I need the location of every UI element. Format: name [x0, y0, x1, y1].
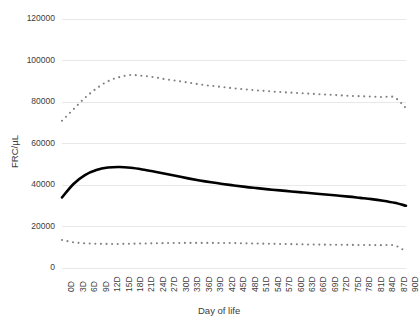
- series-dot: [257, 242, 259, 244]
- series-dot: [189, 242, 191, 244]
- series-dot: [229, 87, 231, 89]
- series-dot: [279, 91, 281, 93]
- series-dot: [124, 75, 126, 77]
- series-dot: [335, 94, 337, 96]
- x-tick-label: 90D: [410, 276, 419, 292]
- y-tick-label: 40000: [3, 179, 55, 189]
- series-dot: [357, 244, 359, 246]
- series-dot: [135, 74, 137, 76]
- series-dot: [374, 96, 376, 98]
- series-dot: [174, 79, 176, 81]
- series-dot: [245, 242, 247, 244]
- series-dot: [296, 92, 298, 94]
- series-dot: [369, 95, 371, 97]
- series-dot: [113, 78, 115, 80]
- series-dot: [234, 242, 236, 244]
- y-tick-label: 20000: [3, 221, 55, 231]
- series-dot: [307, 93, 309, 95]
- series-dot: [100, 243, 102, 245]
- series-dot: [257, 89, 259, 91]
- series-dot: [285, 243, 287, 245]
- series-dot: [178, 242, 180, 244]
- series-dot: [85, 96, 87, 98]
- series-dot: [329, 244, 331, 246]
- series-dot: [83, 242, 85, 244]
- x-tick-label: 42D: [227, 276, 237, 292]
- series-dot: [223, 242, 225, 244]
- series-dot: [162, 78, 164, 80]
- series-dot: [146, 75, 148, 77]
- series-dot: [302, 92, 304, 94]
- series-dot: [212, 85, 214, 87]
- series-dot: [346, 95, 348, 97]
- y-tick-label: 80000: [3, 96, 55, 106]
- series-dots-lower-bound: [61, 239, 403, 250]
- series-dot: [206, 242, 208, 244]
- x-tick-label: 51D: [261, 276, 271, 292]
- series-dot: [73, 108, 75, 110]
- series-dot: [386, 96, 388, 98]
- series-dot: [262, 243, 264, 245]
- series-dot: [268, 243, 270, 245]
- x-tick-label: 45D: [238, 276, 248, 292]
- x-tick-label: 21D: [146, 276, 156, 292]
- series-dot: [324, 244, 326, 246]
- x-tick-label: 78D: [364, 276, 374, 292]
- series-dot: [145, 242, 147, 244]
- series-dot: [93, 89, 95, 91]
- x-tick-label: 36D: [204, 276, 214, 292]
- series-dot: [240, 88, 242, 90]
- x-tick-label: 15D: [124, 276, 134, 292]
- series-dot: [318, 244, 320, 246]
- series-dot: [69, 112, 71, 114]
- x-tick-label: 72D: [341, 276, 351, 292]
- x-tick-label: 24D: [158, 276, 168, 292]
- series-dot: [111, 243, 113, 245]
- series-dot: [201, 84, 203, 86]
- frc-per-microliter-chart: 020000400006000080000100000120000 0D3D6D…: [0, 0, 419, 330]
- series-dot: [352, 244, 354, 246]
- series-group: [61, 74, 406, 250]
- series-dot: [117, 243, 119, 245]
- series-dot: [61, 120, 63, 122]
- series-dot: [77, 104, 79, 106]
- series-dot: [77, 242, 79, 244]
- x-tick-label: 48D: [250, 276, 260, 292]
- x-tick-label: 66D: [318, 276, 328, 292]
- series-dot: [184, 242, 186, 244]
- y-tick-label: 120000: [3, 13, 55, 23]
- series-dot: [279, 243, 281, 245]
- x-tick-label: 63D: [307, 276, 317, 292]
- series-dot: [66, 240, 68, 242]
- series-dot: [341, 244, 343, 246]
- series-dot: [173, 242, 175, 244]
- series-dot: [212, 242, 214, 244]
- series-dot: [285, 91, 287, 93]
- y-axis-title: FRC/µL: [9, 135, 20, 168]
- series-dot: [290, 92, 292, 94]
- series-dot: [94, 243, 96, 245]
- series-dot: [167, 242, 169, 244]
- series-dot: [217, 242, 219, 244]
- series-dot: [81, 100, 83, 102]
- series-dot: [290, 243, 292, 245]
- series-dot: [105, 243, 107, 245]
- series-dot: [103, 83, 105, 85]
- y-tick-label: 0: [3, 262, 55, 272]
- x-tick-label: 69D: [330, 276, 340, 292]
- series-dot: [346, 244, 348, 246]
- series-dot: [268, 90, 270, 92]
- series-dots-upper-bound: [61, 74, 406, 122]
- series-dot: [307, 243, 309, 245]
- series-dot: [385, 244, 387, 246]
- series-dot: [335, 244, 337, 246]
- series-dot: [313, 243, 315, 245]
- x-tick-label: 30D: [181, 276, 191, 292]
- series-dot: [380, 96, 382, 98]
- series-dot: [352, 95, 354, 97]
- series-dot: [229, 242, 231, 244]
- series-dot: [128, 243, 130, 245]
- x-tick-label: 0D: [66, 281, 76, 292]
- series-dot: [404, 106, 406, 108]
- series-dot: [262, 90, 264, 92]
